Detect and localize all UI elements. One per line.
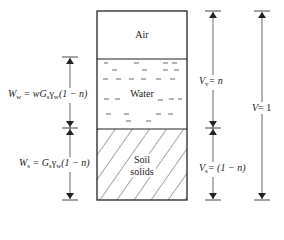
air-label: Air [97,29,187,41]
weight-dimension-arrows [62,57,78,200]
water-label-text: Water [128,88,156,99]
solids-weight-label: Ws = Gsγw(1 − n) [19,157,90,172]
soil-label-line2: solids [128,166,155,177]
soil-label-line1: Soil [132,154,152,165]
total-volume-label: V= 1 [252,102,271,114]
soil-solids-label: Soil solids [97,154,187,178]
water-label: Water [97,88,187,100]
water-weight-label: Ww = wGsγw(1 − n) [8,88,87,103]
void-volume-label: Vv= n [199,75,223,90]
solids-volume-label: Vs= (1 − n) [199,162,246,177]
